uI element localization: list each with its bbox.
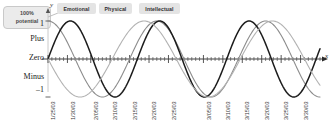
x-tick-label: 3/10/03 <box>225 101 231 120</box>
x-tick-label: 3/15/03 <box>244 101 250 120</box>
x-tick-label: 2/05/03 <box>93 101 99 120</box>
x-tick-label: 3/20/03 <box>264 101 270 120</box>
x-tick-label: 3/05/03 <box>206 101 212 120</box>
biorhythm-chart: 100% potential Emotional Physical Intell… <box>0 0 334 125</box>
x-tick-label: 3/30/03 <box>303 101 309 120</box>
x-tick-label: 3/25/03 <box>283 101 289 120</box>
x-tick-label: 2/25/03 <box>171 101 177 120</box>
x-tick-label: 1/25/03 <box>50 101 56 120</box>
x-tick-label: 2/20/03 <box>151 101 157 120</box>
x-tick-label: 2/10/03 <box>112 101 118 120</box>
x-tick-label: 1/30/03 <box>70 101 76 120</box>
x-tick-label: 2/15/03 <box>132 101 138 120</box>
